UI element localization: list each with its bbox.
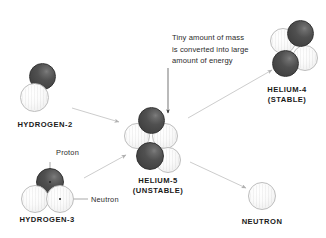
proton-callout-anchor bbox=[49, 181, 52, 184]
label-hydrogen-3: HYDROGEN-3 bbox=[2, 215, 92, 226]
label-helium-4: HELIUM-4 bbox=[248, 85, 326, 96]
fusion-diagram: HYDROGEN-2 HYDROGEN-3 Proton Neutron HEL… bbox=[0, 0, 326, 238]
neutron-sphere-left bbox=[21, 185, 49, 213]
label-neutron: NEUTRON bbox=[222, 217, 302, 228]
label-helium-5-state: (UNSTABLE) bbox=[113, 186, 203, 197]
proton-sphere-top bbox=[287, 20, 314, 47]
neutron-sphere bbox=[20, 83, 49, 112]
neutron-callout-anchor bbox=[59, 198, 62, 201]
proton-sphere-bottom bbox=[136, 142, 164, 170]
arrow-hydrogen3-to-helium5 bbox=[84, 155, 126, 178]
label-helium-4-state: (STABLE) bbox=[248, 95, 326, 106]
label-helium-5: HELIUM-5 bbox=[113, 176, 203, 187]
neutron-sphere bbox=[248, 182, 276, 210]
proton-sphere-top bbox=[138, 107, 165, 134]
annotation-energy-note: Tiny amount of mass is converted into la… bbox=[172, 32, 290, 67]
label-hydrogen-2: HYDROGEN-2 bbox=[0, 120, 90, 131]
callout-label-proton: Proton bbox=[56, 148, 79, 157]
